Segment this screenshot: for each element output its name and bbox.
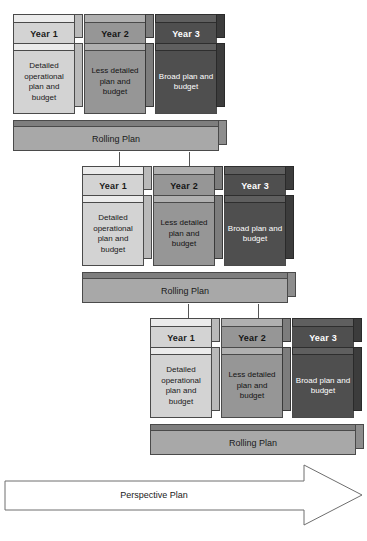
- cuboid-top-face: [224, 166, 286, 175]
- cuboid-side-face: [74, 43, 83, 107]
- cuboid-side-face: [353, 318, 362, 342]
- cuboid-top-face: [82, 195, 144, 203]
- year-header-label: Year 3: [309, 333, 337, 343]
- cuboid-side-face: [282, 347, 291, 411]
- cuboid-side-face: [285, 166, 294, 190]
- year-column-2-year-3: Year 3 Broad plan and budget: [224, 174, 286, 278]
- year-body-box: Broad plan and budget: [155, 50, 217, 114]
- cuboid-top-face: [224, 195, 286, 203]
- cuboid-top-face: [13, 43, 75, 51]
- cuboid-top-face: [155, 43, 217, 51]
- cuboid-top-face: [155, 14, 217, 23]
- year-header-label: Year 2: [170, 181, 198, 191]
- year-body-label: Detailed operational plan and budget: [16, 61, 72, 103]
- cuboid-top-face: [153, 166, 215, 175]
- year-columns-2: Year 1 Detailed operational plan and bud…: [82, 166, 297, 278]
- year-column-1-year-1: Year 1 Detailed operational plan and bud…: [13, 22, 75, 126]
- year-body-box: Less detailed plan and budget: [153, 202, 215, 266]
- year-body-label: Broad plan and budget: [158, 72, 214, 93]
- year-body-box: Less detailed plan and budget: [221, 354, 283, 418]
- cuboid-side-face: [145, 14, 154, 38]
- base-side-face: [287, 272, 296, 297]
- cuboid-side-face: [214, 166, 223, 190]
- year-body-box: Less detailed plan and budget: [84, 50, 146, 114]
- cuboid-top-face: [221, 318, 283, 327]
- cuboid-side-face: [211, 318, 220, 342]
- cuboid-side-face: [143, 166, 152, 190]
- cuboid-side-face: [211, 347, 220, 411]
- cuboid-top-face: [292, 347, 354, 355]
- rolling-plan-base-3: Rolling Plan: [150, 430, 356, 455]
- year-column-2-year-1: Year 1 Detailed operational plan and bud…: [82, 174, 144, 278]
- cuboid-side-face: [353, 347, 362, 411]
- year-column-3-year-3: Year 3 Broad plan and budget: [292, 326, 354, 430]
- base-top-face: [13, 120, 219, 127]
- rolling-plan-label: Rolling Plan: [229, 438, 277, 448]
- cuboid-top-face: [221, 347, 283, 355]
- year-body-box: Broad plan and budget: [292, 354, 354, 418]
- cuboid-top-face: [13, 14, 75, 23]
- year-body-label: Less detailed plan and budget: [87, 66, 143, 98]
- cuboid-side-face: [145, 43, 154, 107]
- year-body-label: Detailed operational plan and budget: [153, 365, 209, 407]
- base-side-face: [218, 120, 227, 145]
- year-body-box: Detailed operational plan and budget: [150, 354, 212, 418]
- year-header-label: Year 3: [172, 29, 200, 39]
- cuboid-side-face: [216, 43, 225, 107]
- cuboid-side-face: [143, 195, 152, 259]
- year-body-label: Broad plan and budget: [227, 224, 283, 245]
- year-header-label: Year 2: [101, 29, 129, 39]
- year-body-box: Detailed operational plan and budget: [82, 202, 144, 266]
- year-column-1-year-2: Year 2 Less detailed plan and budget: [84, 22, 146, 126]
- year-column-3-year-2: Year 2 Less detailed plan and budget: [221, 326, 283, 430]
- perspective-plan-label-wrap: Perspective Plan: [4, 464, 304, 526]
- base-top-face: [150, 424, 356, 431]
- base-side-face: [355, 424, 364, 449]
- year-columns-3: Year 1 Detailed operational plan and bud…: [150, 318, 365, 430]
- rolling-plan-label: Rolling Plan: [161, 286, 209, 296]
- year-body-label: Less detailed plan and budget: [156, 218, 212, 250]
- cuboid-top-face: [82, 166, 144, 175]
- year-body-label: Less detailed plan and budget: [224, 370, 280, 402]
- rolling-plan-group-3: Year 1 Detailed operational plan and bud…: [150, 318, 365, 463]
- cuboid-top-face: [153, 195, 215, 203]
- year-column-1-year-3: Year 3 Broad plan and budget: [155, 22, 217, 126]
- base-top-face: [82, 272, 288, 279]
- year-header-label: Year 2: [238, 333, 266, 343]
- year-body-box: Broad plan and budget: [224, 202, 286, 266]
- year-body-label: Broad plan and budget: [295, 376, 351, 397]
- rolling-plan-group-1: Year 1 Detailed operational plan and bud…: [13, 14, 228, 159]
- year-column-2-year-2: Year 2 Less detailed plan and budget: [153, 174, 215, 278]
- rolling-plan-base-2: Rolling Plan: [82, 278, 288, 303]
- rolling-plan-group-2: Year 1 Detailed operational plan and bud…: [82, 166, 297, 311]
- year-header-label: Year 1: [167, 333, 195, 343]
- cuboid-top-face: [84, 43, 146, 51]
- cuboid-side-face: [214, 195, 223, 259]
- year-columns-1: Year 1 Detailed operational plan and bud…: [13, 14, 228, 126]
- perspective-plan-label: Perspective Plan: [120, 490, 188, 500]
- cuboid-top-face: [150, 347, 212, 355]
- year-body-box: Detailed operational plan and budget: [13, 50, 75, 114]
- cuboid-side-face: [216, 14, 225, 38]
- year-header-label: Year 1: [30, 29, 58, 39]
- cuboid-side-face: [285, 195, 294, 259]
- rolling-plan-label: Rolling Plan: [92, 134, 140, 144]
- year-body-label: Detailed operational plan and budget: [85, 213, 141, 255]
- cuboid-top-face: [84, 14, 146, 23]
- rolling-plan-base-1: Rolling Plan: [13, 126, 219, 151]
- cuboid-top-face: [150, 318, 212, 327]
- diagram-canvas: Year 1 Detailed operational plan and bud…: [0, 0, 367, 541]
- cuboid-side-face: [282, 318, 291, 342]
- year-header-label: Year 3: [241, 181, 269, 191]
- perspective-plan-arrow: Perspective Plan: [4, 464, 364, 526]
- year-column-3-year-1: Year 1 Detailed operational plan and bud…: [150, 326, 212, 430]
- cuboid-top-face: [292, 318, 354, 327]
- year-header-label: Year 1: [99, 181, 127, 191]
- cuboid-side-face: [74, 14, 83, 38]
